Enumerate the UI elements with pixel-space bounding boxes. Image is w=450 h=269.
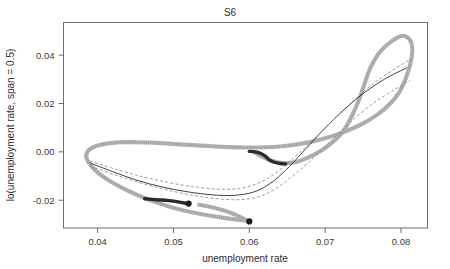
chart-container: S6 0.040.050.060.070.08 -0.020.000.020.0… [0, 0, 450, 269]
x-tick-label: 0.07 [316, 236, 335, 247]
chart-svg: S6 0.040.050.060.070.08 -0.020.000.020.0… [0, 0, 450, 269]
x-tick-label: 0.08 [392, 236, 411, 247]
chart-title: S6 [224, 7, 237, 18]
y-axis-title: lo(unemployment rate, span = 0.5) [5, 49, 16, 202]
x-tick-label: 0.05 [164, 236, 183, 247]
x-tick-label: 0.04 [88, 236, 107, 247]
x-tick-label: 0.06 [240, 236, 259, 247]
endpoint-lower-right [246, 218, 252, 224]
x-axis-title: unemployment rate [202, 253, 288, 264]
y-tick-label: 0.04 [36, 50, 55, 61]
endpoint-lower-left [186, 200, 192, 206]
chart-background [0, 0, 450, 269]
y-tick-label: -0.02 [33, 195, 55, 206]
y-tick-label: 0.02 [36, 98, 55, 109]
y-tick-label: 0.00 [36, 146, 55, 157]
